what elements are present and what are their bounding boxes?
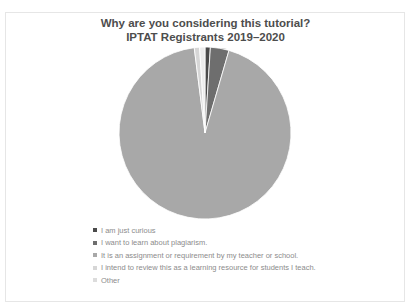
legend-item: Other	[93, 274, 316, 287]
legend: I am just curious I want to learn about …	[93, 224, 316, 287]
legend-label: It is an assignment or requirement by my…	[101, 251, 298, 260]
legend-swatch-icon	[93, 241, 97, 245]
legend-item: I am just curious	[93, 224, 316, 237]
legend-label: I intend to review this as a learning re…	[101, 263, 316, 272]
legend-swatch-icon	[93, 253, 97, 257]
legend-label: Other	[101, 276, 120, 285]
legend-label: I want to learn about plagiarism.	[101, 238, 207, 247]
legend-swatch-icon	[93, 228, 97, 232]
legend-item: I intend to review this as a learning re…	[93, 262, 316, 275]
legend-item: It is an assignment or requirement by my…	[93, 249, 316, 262]
legend-swatch-icon	[93, 266, 97, 270]
legend-swatch-icon	[93, 278, 97, 282]
legend-item: I want to learn about plagiarism.	[93, 237, 316, 250]
legend-label: I am just curious	[101, 226, 156, 235]
